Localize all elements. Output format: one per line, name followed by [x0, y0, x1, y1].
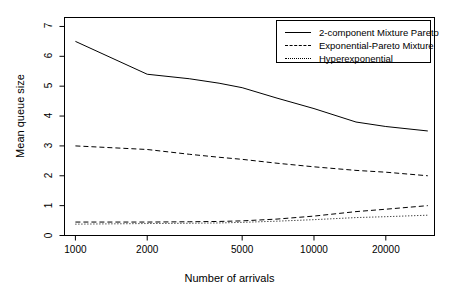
legend-item: 2-component Mixture Pareto [285, 28, 439, 38]
legend-line-sample [285, 45, 311, 47]
y-tick-label: 3 [42, 135, 53, 155]
legend-item: Hyperexponential [285, 54, 393, 64]
x-tick-label: 20000 [356, 244, 416, 255]
legend-line-sample [285, 58, 311, 60]
legend-label: 2-component Mixture Pareto [319, 28, 439, 38]
x-tick-label: 5000 [212, 244, 272, 255]
y-tick-label: 7 [42, 16, 53, 36]
x-tick-label: 10000 [284, 244, 344, 255]
y-tick-label: 0 [42, 225, 53, 245]
y-axis-title: Mean queue size [14, 56, 26, 176]
y-tick-label: 6 [42, 46, 53, 66]
y-tick-label: 4 [42, 106, 53, 126]
y-tick-label: 5 [42, 76, 53, 96]
series-line-2 [75, 215, 427, 224]
legend: 2-component Mixture ParetoExponential-Pa… [276, 20, 431, 63]
x-tick-label: 1000 [45, 244, 105, 255]
legend-label: Exponential-Pareto Mixture [319, 41, 434, 51]
series-line-1 [75, 146, 427, 176]
series-line-3 [75, 206, 427, 222]
x-axis-ticks [75, 236, 385, 241]
legend-item: Exponential-Pareto Mixture [285, 41, 434, 51]
x-axis-title: Number of arrivals [0, 272, 459, 284]
y-tick-label: 2 [42, 165, 53, 185]
y-axis-ticks [60, 26, 65, 235]
legend-label: Hyperexponential [319, 54, 393, 64]
x-tick-label: 2000 [117, 244, 177, 255]
legend-line-sample [285, 32, 311, 34]
y-tick-label: 1 [42, 195, 53, 215]
data-series-group [75, 41, 427, 224]
